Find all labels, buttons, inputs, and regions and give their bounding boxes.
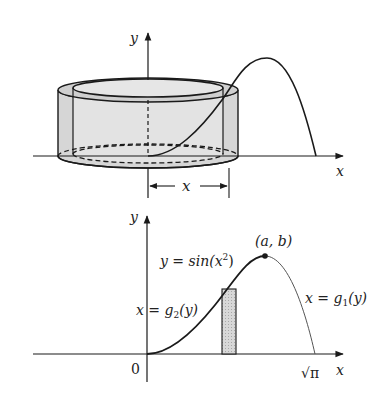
top-y-axis-label: y [129,30,139,46]
curve-equation-label: y = sin(x2) [159,252,234,269]
bottom-figure: y x 0 √π (a, b) y = sin(x2) x = g2(y) x … [33,209,367,382]
sqrt-pi-label: √π [301,365,319,381]
g1-label: x = g1(y) [305,290,367,308]
bottom-x-axis-label: x [336,362,344,378]
top-x-axis-label: x [336,163,344,179]
dimension-x-label: x [182,177,191,195]
diagram-canvas: x y x y x 0 √π (a, b) y = sin(x2) x = g2… [0,0,373,407]
bottom-y-axis-label: y [129,209,139,225]
top-figure: x y x [33,30,344,198]
shell-top-inner-rim [73,79,223,97]
g2-label: x = g2(y) [136,302,198,320]
max-point [262,253,268,259]
point-ab-label: (a, b) [255,233,292,249]
approximating-strip [222,289,236,354]
origin-label: 0 [131,361,140,377]
